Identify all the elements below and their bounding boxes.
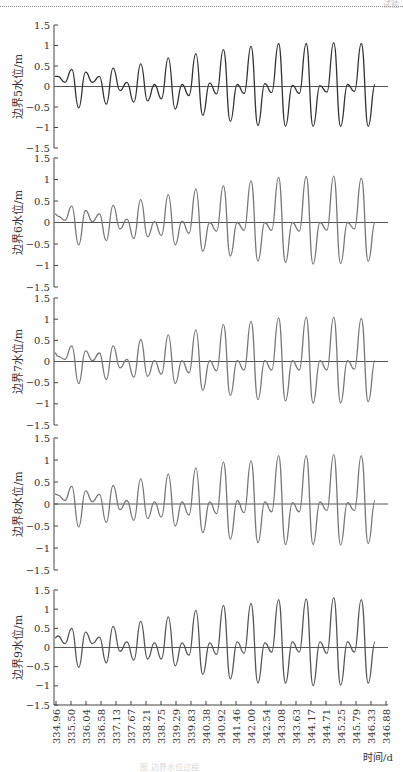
x-tick-label: 338.21 [141,709,152,744]
x-tick-label: 341.46 [231,709,242,744]
y-tick-label: 0 [44,356,50,367]
chart-panel-8: 1.510.50−0.5−1−1.5边界8水位/m [11,433,388,576]
y-axis-label: 边界5水位/m [11,53,25,119]
x-tick-label: 344.17 [306,709,317,744]
water-level-series [55,455,375,545]
x-tick-label: 340.38 [201,709,212,744]
x-tick-label: 337.67 [126,709,137,744]
y-tick-label: −1 [35,260,50,271]
chart-panel-6: 1.510.50−0.5−1−1.5边界6水位/m [11,153,388,293]
y-tick-label: 1 [44,174,50,185]
y-tick-label: 0.5 [34,61,50,72]
y-tick-label: −1 [35,398,50,409]
water-level-series [55,598,375,686]
y-tick-label: −1.5 [26,700,50,711]
x-tick-label: 340.92 [216,709,227,744]
y-tick-label: −0.5 [26,102,50,113]
y-tick-label: −1 [35,680,50,691]
chart-panel-7: 1.510.50−0.5−1−1.5边界7水位/m [11,293,388,431]
chart-panel-9: 1.510.50−0.5−1−1.5边界9水位/m334.96335.50336… [11,585,393,764]
y-tick-label: 1.5 [34,153,50,164]
y-tick-label: 1 [44,314,50,325]
y-tick-label: 1.5 [34,20,50,31]
x-tick-label: 345.79 [351,709,362,744]
y-axis-label: 边界7水位/m [11,328,25,394]
x-tick-label: 342.00 [246,709,257,744]
y-tick-label: −1.5 [26,565,50,576]
y-tick-label: −0.5 [26,521,50,532]
y-tick-label: −1.5 [26,420,50,431]
x-tick-label: 342.54 [261,709,272,744]
x-tick-label: 343.63 [291,709,302,744]
y-tick-label: −0.5 [26,239,50,250]
y-tick-label: 0 [44,642,50,653]
y-tick-label: −0.5 [26,377,50,388]
y-tick-label: 0 [44,81,50,92]
y-tick-label: 1 [44,40,50,51]
x-tick-label: 344.71 [321,709,332,744]
x-tick-label: 346.33 [366,709,377,744]
y-tick-label: 1.5 [34,293,50,304]
x-tick-label: 343.08 [276,709,287,744]
y-tick-label: 0 [44,217,50,228]
y-tick-label: 1 [44,455,50,466]
water-level-series [55,317,375,403]
y-tick-label: 1.5 [34,433,50,444]
y-tick-label: 1.5 [34,585,50,596]
y-tick-label: 0.5 [34,196,50,207]
x-tick-label: 336.58 [96,709,107,744]
figure-caption: 图 边界水位过程 [140,761,199,772]
y-tick-label: −1.5 [26,282,50,293]
x-tick-label: 339.29 [171,709,182,744]
water-level-series [55,176,375,264]
x-tick-label: 339.83 [186,709,197,744]
y-tick-label: 0 [44,499,50,510]
x-tick-label: 346.88 [381,709,392,744]
x-tick-label: 334.96 [51,709,62,744]
y-axis-label: 边界6水位/m [11,189,25,255]
y-tick-label: 0.5 [34,477,50,488]
y-axis-label: 边界9水位/m [11,614,25,680]
y-tick-label: −1 [35,122,50,133]
x-tick-label: 345.25 [336,709,347,744]
water-level-series [55,43,375,127]
x-axis-label: 时间/d [363,751,393,763]
y-tick-label: −1 [35,543,50,554]
x-tick-label: 337.13 [111,709,122,744]
x-tick-label: 335.50 [66,709,77,744]
x-tick-label: 338.75 [156,709,167,744]
y-tick-label: −0.5 [26,661,50,672]
y-tick-label: 1 [44,604,50,615]
y-tick-label: 0.5 [34,623,50,634]
x-tick-label: 336.04 [81,709,92,744]
chart-panel-5: 1.510.50−0.5−1−1.5边界5水位/m [11,20,388,154]
y-tick-label: 0.5 [34,335,50,346]
y-axis-label: 边界8水位/m [11,471,25,537]
